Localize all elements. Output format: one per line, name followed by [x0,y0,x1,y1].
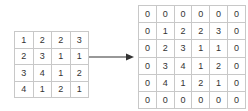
matrix-cell: 0 [227,57,245,74]
matrix-cell: 0 [227,74,245,91]
matrix-row: 041210 [139,74,246,91]
matrix-cell: 0 [139,57,157,74]
matrix-cell: 0 [227,23,245,40]
matrix-cell: 1 [210,74,228,91]
matrix-row: 000000 [139,91,246,108]
matrix-cell: 1 [174,74,192,91]
matrix-cell: 3 [210,23,228,40]
matrix-cell: 3 [15,65,34,82]
matrix-cell: 0 [139,23,157,40]
matrix-cell: 1 [156,23,174,40]
matrix-cell: 0 [192,91,210,108]
matrix-cell: 0 [227,40,245,57]
input-matrix-body: 1223231134124121 [15,32,89,98]
matrix-row: 1223 [15,32,89,49]
matrix-cell: 0 [210,6,228,23]
arrow-right-icon [88,51,136,63]
matrix-cell: 1 [192,40,210,57]
matrix-row: 2311 [15,48,89,65]
matrix-cell: 4 [156,74,174,91]
matrix-cell: 0 [156,6,174,23]
matrix-cell: 1 [192,57,210,74]
matrix-cell: 4 [174,57,192,74]
matrix-cell: 0 [139,91,157,108]
output-matrix-body: 000000012230023110034120041210000000 [139,6,246,109]
matrix-cell: 0 [156,91,174,108]
matrix-cell: 1 [70,48,89,65]
matrix-cell: 0 [139,74,157,91]
matrix-row: 3412 [15,65,89,82]
matrix-cell: 0 [139,6,157,23]
matrix-cell: 0 [210,91,228,108]
matrix-cell: 1 [70,81,89,98]
matrix-cell: 1 [52,65,71,82]
matrix-cell: 2 [33,32,52,49]
matrix-row: 034120 [139,57,246,74]
matrix-cell: 1 [52,48,71,65]
matrix-cell: 2 [156,40,174,57]
matrix-row: 023110 [139,40,246,57]
matrix-cell: 4 [15,81,34,98]
matrix-cell: 2 [52,81,71,98]
matrix-cell: 0 [227,6,245,23]
matrix-cell: 2 [52,32,71,49]
matrix-cell: 3 [33,48,52,65]
matrix-row: 4121 [15,81,89,98]
matrix-cell: 0 [174,91,192,108]
matrix-cell: 0 [192,6,210,23]
matrix-cell: 3 [70,32,89,49]
matrix-cell: 3 [156,57,174,74]
matrix-cell: 2 [15,48,34,65]
matrix-cell: 2 [192,74,210,91]
matrix-cell: 2 [210,57,228,74]
matrix-row: 000000 [139,6,246,23]
matrix-cell: 1 [33,81,52,98]
output-matrix: 000000012230023110034120041210000000 [138,5,246,109]
matrix-cell: 0 [174,6,192,23]
matrix-cell: 2 [70,65,89,82]
matrix-cell: 0 [227,91,245,108]
matrix-cell: 2 [192,23,210,40]
matrix-cell: 2 [174,23,192,40]
matrix-cell: 3 [174,40,192,57]
matrix-cell: 4 [33,65,52,82]
matrix-cell: 1 [210,40,228,57]
input-matrix: 1223231134124121 [14,31,89,98]
matrix-cell: 0 [139,40,157,57]
matrix-row: 012230 [139,23,246,40]
matrix-cell: 1 [15,32,34,49]
